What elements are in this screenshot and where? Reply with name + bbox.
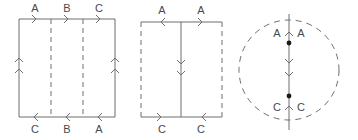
diagram-3-lower-label-left: C bbox=[273, 101, 281, 113]
diagram-1-top-label-c: C bbox=[95, 2, 103, 14]
diagram-1-top-label-b: B bbox=[63, 2, 70, 14]
diagram-1-bottom-label-a: A bbox=[95, 123, 103, 135]
diagram-2: A A C C bbox=[141, 4, 222, 135]
diagram-2-top-label-right: A bbox=[197, 4, 205, 16]
diagram-2-top-label-left: A bbox=[158, 4, 166, 16]
diagram-1-top-label-a: A bbox=[31, 2, 39, 14]
diagram-3-lower-label-right: C bbox=[297, 101, 305, 113]
diagram-3: A A C C bbox=[239, 14, 339, 130]
diagram-2-bottom-label-left: C bbox=[158, 123, 166, 135]
diagram-1-bottom-label-b: B bbox=[63, 123, 70, 135]
diagram-3-upper-label-right: A bbox=[297, 27, 305, 39]
diagram-3-dot-upper bbox=[287, 41, 292, 46]
figure-canvas: A B C C B A bbox=[0, 0, 358, 140]
diagram-2-bottom-label-right: C bbox=[197, 123, 205, 135]
diagram-1: A B C C B A bbox=[15, 2, 119, 135]
diagram-3-upper-label-left: A bbox=[273, 27, 281, 39]
identification-diagrams-svg: A B C C B A bbox=[0, 0, 358, 140]
diagram-3-dot-lower bbox=[287, 94, 292, 99]
diagram-1-bottom-label-c: C bbox=[31, 123, 39, 135]
